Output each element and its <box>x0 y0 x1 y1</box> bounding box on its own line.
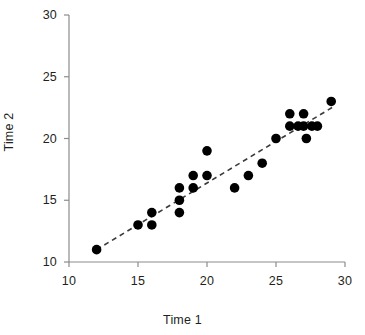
data-point <box>202 146 212 156</box>
x-tick-label: 25 <box>261 275 291 288</box>
scatter-plot-figure: 1015202530 1015202530 Time 1 Time 2 <box>0 0 365 335</box>
data-point <box>313 121 323 131</box>
y-tick-label: 30 <box>31 9 57 22</box>
y-axis-title: Time 2 <box>2 99 16 165</box>
y-tick-label: 20 <box>31 133 57 146</box>
data-point <box>285 109 295 119</box>
data-point <box>147 208 157 218</box>
data-point <box>244 171 254 181</box>
y-tick-label: 10 <box>31 256 57 269</box>
data-point <box>133 220 143 230</box>
x-axis-title: Time 1 <box>0 313 365 327</box>
data-point <box>92 245 102 255</box>
data-point <box>188 171 198 181</box>
data-point <box>230 183 240 193</box>
data-point <box>175 195 185 205</box>
data-point <box>299 109 309 119</box>
data-point <box>285 121 295 131</box>
x-tick-label: 30 <box>330 275 360 288</box>
x-tick-label: 20 <box>192 275 222 288</box>
data-point <box>326 97 336 107</box>
data-point <box>188 183 198 193</box>
y-tick-label: 15 <box>31 194 57 207</box>
data-point <box>271 134 281 144</box>
data-point <box>202 171 212 181</box>
data-point <box>302 134 312 144</box>
data-point <box>175 183 185 193</box>
data-point <box>175 208 185 218</box>
x-tick-label: 15 <box>123 275 153 288</box>
x-tick-label: 10 <box>54 275 84 288</box>
data-point <box>147 220 157 230</box>
y-tick-label: 25 <box>31 71 57 84</box>
data-point <box>299 121 309 131</box>
data-point <box>257 158 267 168</box>
